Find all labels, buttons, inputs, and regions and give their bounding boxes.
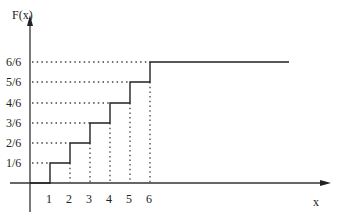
y-axis-label: F(x) bbox=[12, 8, 33, 22]
x-tick-label: 6 bbox=[146, 192, 152, 206]
y-tick-label: 4/6 bbox=[6, 96, 21, 110]
x-axis-label: x bbox=[313, 195, 319, 209]
y-tick-label: 3/6 bbox=[6, 116, 21, 130]
x-axis-arrow-icon bbox=[320, 180, 331, 186]
horizontal-guides bbox=[32, 62, 150, 163]
cdf-step-chart: F(x) x 1/6 2/6 3/6 4/6 5/6 6/6 1 2 3 4 5… bbox=[0, 0, 339, 214]
x-tick-label: 2 bbox=[66, 192, 72, 206]
x-tick-label: 5 bbox=[126, 192, 132, 206]
vertical-guides bbox=[70, 82, 150, 182]
y-tick-label: 5/6 bbox=[6, 75, 21, 89]
x-tick-label: 3 bbox=[86, 192, 92, 206]
x-tick-label: 1 bbox=[46, 192, 52, 206]
y-tick-label: 1/6 bbox=[6, 156, 21, 170]
cdf-step-line bbox=[30, 62, 289, 183]
y-tick-label: 2/6 bbox=[6, 136, 21, 150]
x-tick-label: 4 bbox=[106, 192, 112, 206]
y-tick-label: 6/6 bbox=[6, 55, 21, 69]
